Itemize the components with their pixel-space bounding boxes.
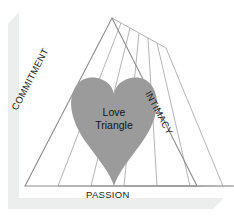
echo-apex-link-2: [121, 23, 130, 28]
heart-center-label: Love Triangle: [79, 106, 149, 132]
echo-apex-link-3: [130, 28, 139, 33]
echo-triangle-6: [166, 48, 234, 186]
echo-apex-link-4: [139, 33, 148, 38]
heart-label-line-2: Triangle: [79, 119, 149, 132]
heart-label-line-1: Love: [79, 106, 149, 119]
echo-triangle-5: [157, 43, 234, 186]
diagram-canvas: COMMITMENT INTIMACY PASSION Love Triangl…: [0, 0, 234, 216]
echo-apex-link-5: [148, 38, 157, 43]
label-passion: PASSION: [86, 189, 130, 200]
